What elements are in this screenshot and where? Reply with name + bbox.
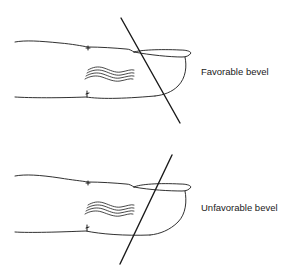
bevel-line-unfavorable — [120, 155, 172, 264]
finger-unfavorable — [15, 175, 191, 235]
bevel-diagram: Favorable bevel Unfavorable bevel — [0, 0, 296, 276]
finger-bottom-contour — [15, 231, 150, 235]
fingernail — [134, 184, 191, 191]
joint-crease-bottom — [86, 225, 89, 231]
unfavorable-bevel-label: Unfavorable bevel — [201, 203, 278, 213]
bevel-line-favorable — [121, 18, 180, 123]
finger-bottom-contour — [15, 96, 155, 98]
fingertip-contour — [150, 191, 186, 235]
finger-favorable — [15, 41, 191, 98]
fingerprint-lines — [85, 202, 134, 216]
diagram-drawing — [0, 0, 296, 276]
fingertip-contour — [155, 57, 186, 96]
finger-top-contour — [15, 175, 134, 187]
joint-crease-bottom — [86, 91, 89, 97]
favorable-bevel-label: Favorable bevel — [201, 67, 269, 77]
finger-top-contour — [15, 41, 134, 52]
fingerprint-lines — [85, 67, 134, 81]
